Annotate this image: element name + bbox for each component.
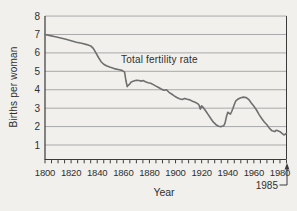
x-tick-label: 1820 <box>61 167 81 178</box>
x-tick-label: 1860 <box>113 167 133 178</box>
fertility-rate-chart: 1234567818001820184018601880190019201940… <box>0 0 297 211</box>
fertility-rate-line <box>45 35 287 135</box>
x-tick-label: 1840 <box>87 167 107 178</box>
x-tick-label: 1800 <box>35 167 55 178</box>
x-tick-label: 1900 <box>165 167 185 178</box>
y-axis-title: Births per woman <box>8 32 20 142</box>
y-tick-label: 6 <box>34 47 40 58</box>
y-tick-label: 2 <box>34 121 40 132</box>
x-tick-label: 1960 <box>244 167 264 178</box>
x-tick-label: 1880 <box>139 167 159 178</box>
x-tick-label: 1920 <box>191 167 211 178</box>
y-tick-label: 1 <box>34 140 40 151</box>
y-tick-label: 5 <box>34 66 40 77</box>
y-tick-label: 4 <box>34 84 40 95</box>
series-label: Total fertility rate <box>121 54 198 65</box>
x-tick-label: 1940 <box>218 167 238 178</box>
y-tick-label: 8 <box>34 11 40 22</box>
y-tick-label: 7 <box>34 29 40 40</box>
x-axis-title: Year <box>140 186 188 198</box>
end-year-annotation-label: 1985 <box>246 180 278 192</box>
y-tick-label: 3 <box>34 103 40 114</box>
